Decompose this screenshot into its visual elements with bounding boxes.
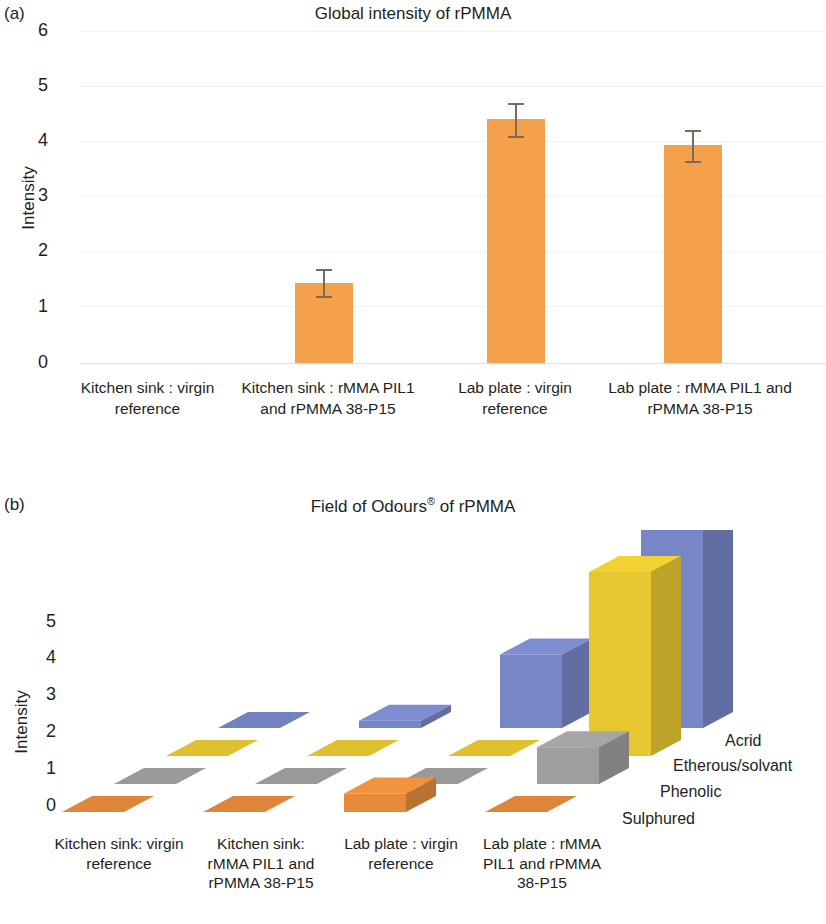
bar-plate-phenolic-cat1 [114,768,206,784]
gridline [80,86,826,87]
x-category-label-4: Lab plate : rMMA PIL1 and rPMMA 38-P15 [605,378,795,419]
bar-plate-acrid-cat1 [218,712,310,728]
panel-b-3d-bars [0,530,826,870]
gridline [80,31,826,32]
bar-lab-plate-rmma [664,145,722,363]
y-tick-label: 0 [22,352,48,373]
registered-trademark-symbol: ® [427,495,435,507]
y-tick-label: 6 [22,20,48,41]
bar-front-acrid-cat3 [500,654,562,728]
panel-b-title: Field of Odours® of rPMMA [0,495,826,517]
x-category-label-3: Lab plate : virgin reference [430,378,600,419]
bar-plate-etherous-solvant-cat1 [166,740,258,756]
bar-side-etherous-solvant-cat4 [651,556,681,756]
error-bar-kitchen-sink-rmma [323,269,325,297]
x-category-label-1: Kitchen sink : virgin reference [55,378,240,419]
bar-front-phenolic-cat4 [537,747,599,784]
bar-plate-sulphured-cat1 [62,796,154,812]
error-bar-cap [508,136,524,138]
x-category-label-2: Kitchen sink : rMMA PIL1 and rPMMA 38-P1… [237,378,419,419]
error-bar-cap [685,130,701,132]
y-tick-label: 3 [22,185,48,206]
bar-plate-etherous-solvant-cat3 [448,740,540,756]
x-category-label-4: Lab plate : rMMA PIL1 and rPMMA 38-P15 [478,834,606,893]
y-tick-label: 5 [22,75,48,96]
y-tick-label: 4 [22,130,48,151]
error-bar-cap [316,269,332,271]
series-label-phenolic: Phenolic [660,783,721,801]
panel-a-global-intensity: (a) Global intensity of rPMMA Intensity … [0,0,826,470]
bar-plate-sulphured-cat2 [203,796,295,812]
bar-plate-sulphured-cat4 [485,796,577,812]
series-label-sulphured: Sulphured [622,810,695,828]
bar-front-sulphured-cat3 [344,794,406,812]
bar-front-etherous-solvant-cat4 [589,572,651,756]
x-category-label-1: Kitchen sink: virgin reference [54,834,184,873]
gridline [80,363,826,364]
y-tick-label: 1 [22,296,48,317]
y-tick-label: 2 [22,240,48,261]
x-category-label-2: Kitchen sink: rMMA PIL1 and rPMMA 38-P15 [196,834,326,893]
bar-lab-plate-virgin [487,119,545,363]
bar-plate-etherous-solvant-cat2 [307,740,399,756]
error-bar-cap [316,296,332,298]
panel-b-title-main: Field of Odours [311,497,427,516]
panel-b-field-of-odours: (b) Field of Odours® of rPMMA Intensity … [0,490,826,924]
error-bar-cap [685,161,701,163]
error-bar-cap [508,103,524,105]
bar-side-acrid-cat4 [703,530,733,728]
gridline [80,141,826,142]
bar-front-acrid-cat2 [359,721,421,728]
panel-a-title: Global intensity of rPMMA [0,4,826,24]
error-bar-lab-plate-virgin [515,103,517,137]
panel-b-title-tail: of rPMMA [435,497,515,516]
x-category-label-3: Lab plate : virgin reference [337,834,465,873]
series-label-acrid: Acrid [725,732,761,750]
error-bar-lab-plate-rmma [692,130,694,162]
series-label-etherous: Etherous/solvant [673,757,792,775]
bar-plate-phenolic-cat2 [255,768,347,784]
